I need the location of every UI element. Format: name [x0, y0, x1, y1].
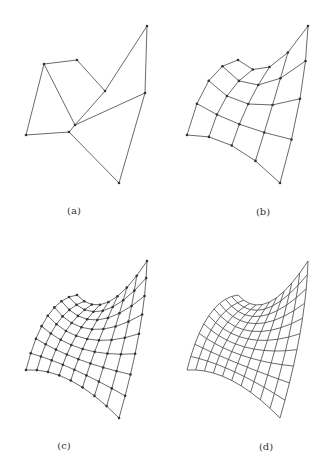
panel-a-control-net [25, 25, 149, 185]
panel-a-label: (a) [67, 205, 81, 216]
panel-b-net [186, 25, 310, 185]
figure-canvas [0, 0, 323, 465]
panel-d-surface [187, 261, 308, 418]
panel-c-net [25, 260, 149, 420]
panel-b-label: (b) [256, 206, 270, 217]
panel-d-label: (d) [259, 441, 273, 452]
panel-c-label: (c) [57, 440, 70, 451]
